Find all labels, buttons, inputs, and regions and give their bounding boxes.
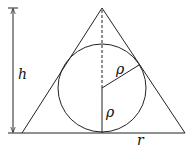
cone-incircle-diagram: h ρ ρ r <box>0 0 190 149</box>
vertical-radius-label: ρ <box>105 104 115 120</box>
base-radius-label: r <box>137 132 145 148</box>
height-label: h <box>18 66 27 82</box>
slant-radius-label: ρ <box>115 61 125 77</box>
triangle <box>22 8 185 133</box>
